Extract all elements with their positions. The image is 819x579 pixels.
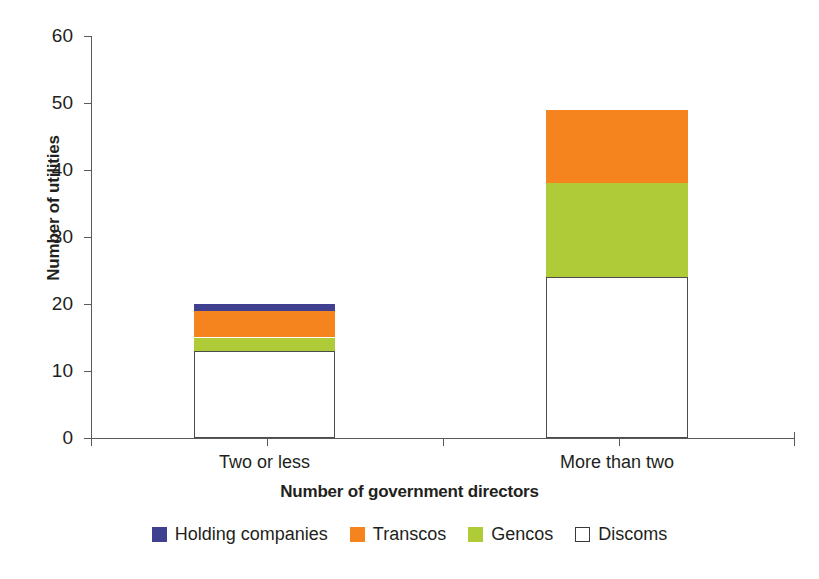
x-axis-tick [91,438,92,446]
y-axis-tick-label: 10 [52,360,73,382]
legend-label: Discoms [598,524,667,545]
x-axis-tick [794,438,795,446]
bar-segment-transcos [546,110,688,184]
chart-legend: Holding companiesTranscosGencosDiscoms [0,524,819,545]
legend-label: Transcos [373,524,446,545]
x-axis-category-label: Two or less [219,452,310,473]
bar-segment-holding-companies [194,304,335,311]
plot-area: 0102030405060 [91,36,795,438]
y-axis-tick: 20 [84,304,91,305]
y-axis-tick: 0 [84,438,91,439]
cropped-caption-remnant [0,560,819,579]
stacked-bar-chart: Number of utilities 0102030405060 Two or… [0,0,819,579]
legend-swatch-icon [468,527,483,542]
legend-item-holding-companies[interactable]: Holding companies [152,524,328,545]
bar-segment-gencos [546,183,688,277]
y-axis-tick-label: 20 [52,293,73,315]
y-axis-tick-label: 50 [52,92,73,114]
y-axis-tick-label: 0 [62,427,73,449]
y-axis-title: Number of utilities [44,98,64,318]
y-axis-line [91,36,92,439]
x-axis-category-label: More than two [560,452,674,473]
legend-label: Holding companies [175,524,328,545]
x-axis-tick [443,438,444,446]
y-axis-tick: 60 [84,36,91,37]
x-axis-tick [619,438,620,446]
legend-item-transcos[interactable]: Transcos [350,524,446,545]
y-axis-tick: 50 [84,103,91,104]
bar-segment-discoms [546,277,688,438]
bar-segment-discoms [194,351,335,438]
y-axis-tick-label: 40 [52,159,73,181]
legend-swatch-icon [350,527,365,542]
legend-label: Gencos [491,524,553,545]
bar-1 [194,36,335,438]
bar-segment-transcos [194,311,335,338]
legend-item-gencos[interactable]: Gencos [468,524,553,545]
bar-2 [546,36,688,438]
legend-item-discoms[interactable]: Discoms [575,524,667,545]
bar-segment-gencos [194,338,335,351]
x-axis-tick [267,438,268,446]
y-axis-tick: 30 [84,237,91,238]
x-axis-title: Number of government directors [0,482,819,502]
legend-swatch-icon [575,527,590,542]
y-axis-tick-label: 60 [52,25,73,47]
legend-swatch-icon [152,527,167,542]
y-axis-tick-label: 30 [52,226,73,248]
y-axis-tick: 10 [84,371,91,372]
y-axis-tick: 40 [84,170,91,171]
